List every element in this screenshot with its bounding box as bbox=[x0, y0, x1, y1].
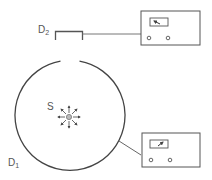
diagram-canvas: D2 D1 S bbox=[0, 0, 212, 180]
meter-d2-knob-left bbox=[147, 36, 151, 40]
meter-d1-display bbox=[150, 140, 168, 148]
wire-d1-to-meter bbox=[119, 141, 141, 155]
meter-d2 bbox=[141, 11, 200, 45]
source-dot-icon bbox=[66, 114, 71, 119]
meter-d1-knob-right bbox=[168, 158, 172, 162]
meter-d1-knob-left bbox=[149, 158, 153, 162]
detector-d2-bracket bbox=[56, 32, 83, 41]
meter-d2-display bbox=[150, 18, 168, 26]
meter-d1 bbox=[142, 133, 200, 167]
source-s bbox=[58, 106, 80, 128]
label-d2: D2 bbox=[38, 24, 49, 36]
meter-d2-knob-right bbox=[166, 36, 170, 40]
label-source: S bbox=[47, 101, 54, 112]
label-d1: D1 bbox=[8, 157, 19, 169]
